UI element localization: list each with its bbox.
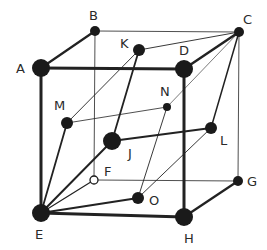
edge-m-n (67, 107, 167, 123)
node-g (233, 176, 243, 186)
node-label-a: A (16, 61, 25, 76)
node-h (175, 208, 193, 226)
node-k (133, 44, 145, 56)
node-c (234, 27, 244, 37)
lattice-diagram: ABCDKMNJLFGOEH (0, 0, 267, 250)
node-label-e: E (35, 227, 43, 242)
node-j (103, 132, 121, 150)
node-a (32, 59, 50, 77)
edge-j-l (112, 128, 211, 141)
edge-b-c (95, 31, 239, 32)
node-label-h: H (184, 231, 194, 246)
edge-c-g (238, 32, 239, 181)
node-label-f: F (104, 164, 111, 179)
edge-g-h (184, 181, 238, 217)
edge-f-g (94, 180, 238, 181)
node-label-m: M (54, 98, 65, 113)
node-label-g: G (247, 174, 257, 189)
node-m (61, 117, 73, 129)
edge-a-b (41, 31, 95, 68)
node-d (175, 60, 193, 78)
node-label-l: L (220, 133, 228, 148)
node-e (32, 204, 50, 222)
edge-a-d (41, 68, 184, 69)
node-label-b: B (89, 8, 98, 23)
edge-o-e (41, 198, 138, 213)
node-label-c: C (243, 12, 252, 27)
edge-c-d (184, 32, 239, 69)
node-label-d: D (179, 43, 189, 58)
node-o (132, 192, 144, 204)
node-n (163, 103, 171, 111)
node-b (90, 26, 100, 36)
node-label-j: J (127, 146, 132, 161)
node-label-o: O (149, 193, 159, 208)
node-label-n: N (160, 84, 170, 99)
node-f (90, 176, 98, 184)
node-label-k: K (120, 36, 129, 51)
edge-e-h (41, 213, 184, 217)
node-l (205, 122, 217, 134)
